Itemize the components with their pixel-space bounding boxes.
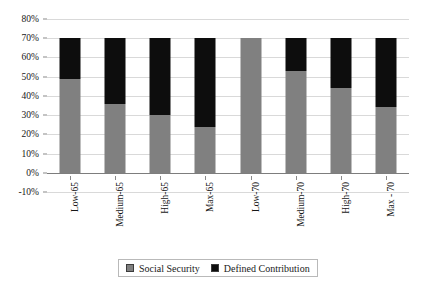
x-tick-label: High-70 [341, 182, 351, 214]
x-label-slot: Low-65 [47, 176, 92, 254]
bar-stack[interactable] [331, 19, 352, 192]
x-tick-label: Low-65 [70, 182, 80, 212]
x-tick-label: Medium-65 [115, 182, 125, 227]
x-label-slot: Medium-70 [273, 176, 318, 254]
bar-stack[interactable] [59, 19, 80, 192]
bar-slot[interactable] [47, 19, 92, 192]
bars-layer [47, 19, 409, 192]
bar-segment[interactable] [150, 115, 171, 173]
bar-stack[interactable] [285, 19, 306, 192]
x-label-slot: Medium-65 [92, 176, 137, 254]
y-tick-label: 0% [26, 168, 39, 178]
bar-slot[interactable] [138, 19, 183, 192]
bar-segment[interactable] [195, 38, 216, 126]
x-axis-labels: Low-65Medium-65High-65Max-65Low-70Medium… [47, 176, 409, 254]
x-tick-mark [296, 176, 297, 180]
x-label-slot: Max - 70 [364, 176, 409, 254]
bar-stack[interactable] [150, 19, 171, 192]
y-tick-label: 30% [22, 110, 39, 120]
bar-stack[interactable] [376, 19, 397, 192]
bar-segment[interactable] [331, 88, 352, 173]
bar-stack[interactable] [240, 19, 261, 192]
legend-item[interactable]: Defined Contribution [211, 263, 310, 274]
x-tick-label: Medium-70 [296, 182, 306, 227]
x-tick-mark [205, 176, 206, 180]
legend-item[interactable]: Social Security [126, 263, 200, 274]
legend-label: Defined Contribution [224, 263, 310, 274]
x-tick-mark [386, 176, 387, 180]
x-label-slot: Max-65 [183, 176, 228, 254]
bar-segment[interactable] [285, 38, 306, 71]
bar-segment[interactable] [376, 107, 397, 172]
bar-slot[interactable] [319, 19, 364, 192]
y-tick-label: 70% [22, 33, 39, 43]
bar-segment[interactable] [59, 79, 80, 173]
bar-segment[interactable] [240, 38, 261, 173]
y-tick-label: 40% [22, 91, 39, 101]
bar-slot[interactable] [273, 19, 318, 192]
x-tick-label: High-65 [160, 182, 170, 214]
legend-swatch-icon [211, 264, 219, 272]
y-axis-labels: 80%70%60%50%40%30%20%10%0%-10% [0, 19, 43, 192]
y-tick-label: 60% [22, 52, 39, 62]
x-label-slot: Low-70 [228, 176, 273, 254]
y-tick-label: 50% [22, 72, 39, 82]
x-tick-mark [341, 176, 342, 180]
x-tick-mark [160, 176, 161, 180]
bar-segment[interactable] [104, 38, 125, 103]
y-tick-label: 10% [22, 149, 39, 159]
x-label-slot: High-70 [319, 176, 364, 254]
chart-legend: Social SecurityDefined Contribution [118, 259, 318, 277]
bar-segment[interactable] [285, 71, 306, 173]
x-tick-label: Max-65 [205, 182, 215, 212]
bar-slot[interactable] [183, 19, 228, 192]
x-tick-label: Max - 70 [386, 182, 396, 217]
y-tick-label: 80% [22, 14, 39, 24]
bar-segment[interactable] [376, 38, 397, 107]
x-tick-mark [251, 176, 252, 180]
bar-segment[interactable] [150, 38, 171, 115]
legend-label: Social Security [139, 263, 200, 274]
bar-slot[interactable] [364, 19, 409, 192]
bar-segment[interactable] [195, 127, 216, 173]
bar-stack[interactable] [195, 19, 216, 192]
bar-segment[interactable] [331, 38, 352, 88]
legend-swatch-icon [126, 264, 134, 272]
bar-stack[interactable] [104, 19, 125, 192]
x-tick-mark [70, 176, 71, 180]
x-tick-label: Low-70 [251, 182, 261, 212]
y-tick-label: -10% [18, 187, 39, 197]
bar-slot[interactable] [228, 19, 273, 192]
bar-slot[interactable] [92, 19, 137, 192]
bar-segment[interactable] [59, 38, 80, 78]
y-tick-label: 20% [22, 129, 39, 139]
x-tick-mark [115, 176, 116, 180]
stacked-bar-chart: 80%70%60%50%40%30%20%10%0%-10% Low-65Med… [0, 0, 422, 286]
plot-area [47, 19, 409, 192]
x-label-slot: High-65 [138, 176, 183, 254]
bar-segment[interactable] [104, 104, 125, 173]
